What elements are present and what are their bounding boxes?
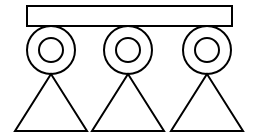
triangle (92, 74, 164, 131)
inner-circle (116, 38, 140, 62)
unit-group-3 (171, 26, 243, 131)
unit-group-1 (15, 26, 87, 131)
outer-circle (183, 26, 231, 74)
triangle (171, 74, 243, 131)
outer-circle (27, 26, 75, 74)
figure-canvas (0, 0, 257, 140)
horizontal-bar (27, 6, 232, 26)
unit-group-2 (92, 26, 164, 131)
inner-circle (39, 38, 63, 62)
triangle (15, 74, 87, 131)
outer-circle (104, 26, 152, 74)
inner-circle (195, 38, 219, 62)
line-drawing (0, 0, 257, 140)
